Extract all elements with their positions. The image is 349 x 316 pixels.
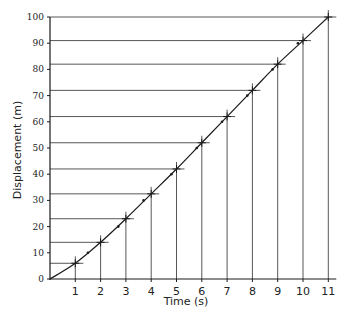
y-tick-label: 50 <box>33 143 45 153</box>
displacement-time-chart: 0102030405060708090100 1234567891011 Tim… <box>0 0 349 316</box>
axes <box>50 17 336 280</box>
y-tick-label: 90 <box>33 38 45 48</box>
data-dot <box>195 147 198 150</box>
x-tick-label: 7 <box>224 285 231 298</box>
x-tick-label: 10 <box>296 285 310 298</box>
y-tick-label: 0 <box>38 274 44 284</box>
y-tick-label: 100 <box>27 12 44 22</box>
guide-lines <box>50 10 336 279</box>
x-tick-label: 3 <box>122 285 129 298</box>
x-tick-label: 8 <box>249 285 256 298</box>
y-tick-label: 40 <box>33 169 45 179</box>
x-tick-label: 4 <box>148 285 155 298</box>
data-dot <box>117 225 120 228</box>
y-axis-ticks: 0102030405060708090100 <box>27 12 50 284</box>
data-dot <box>221 121 224 124</box>
data-dot <box>271 68 274 71</box>
y-tick-label: 60 <box>33 117 45 127</box>
displacement-curve <box>50 17 328 279</box>
data-dot <box>142 199 145 202</box>
x-tick-label: 2 <box>97 285 104 298</box>
y-axis-label: Displacement (m) <box>11 101 24 199</box>
x-tick-label: 9 <box>274 285 281 298</box>
y-tick-label: 10 <box>33 248 45 258</box>
curve-path <box>50 17 328 279</box>
x-axis-label: Time (s) <box>163 295 209 308</box>
data-dot <box>87 252 90 255</box>
data-dot <box>170 173 173 176</box>
data-dot <box>297 42 300 45</box>
y-tick-label: 80 <box>33 64 45 74</box>
y-tick-label: 30 <box>33 195 45 205</box>
x-tick-label: 1 <box>72 285 79 298</box>
x-tick-label: 11 <box>321 285 335 298</box>
y-tick-label: 70 <box>33 91 45 101</box>
y-tick-label: 20 <box>33 222 45 232</box>
data-dot <box>246 94 249 97</box>
